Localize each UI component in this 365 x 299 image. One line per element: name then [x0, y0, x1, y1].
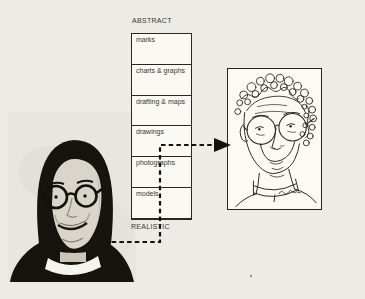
scale-level-label: photographs [132, 157, 191, 167]
scale-level-label: charts & graphs [132, 65, 191, 75]
scale-top-label: ABSTRACT [132, 17, 172, 24]
scale-level-charts-graphs: charts & graphs [132, 65, 191, 96]
scale-bottom-label: REALISTIC [131, 223, 170, 230]
scale-level-photographs: photographs [132, 157, 191, 188]
scale-level-models: models [132, 188, 191, 218]
scale-level-marks: marks [132, 34, 191, 65]
abstraction-scale-column: marks charts & graphs drafting & maps dr… [131, 33, 192, 220]
scale-level-label: drawings [132, 126, 191, 136]
scale-level-label: models [132, 188, 191, 198]
scale-level-drafting-maps: drafting & maps [132, 96, 191, 127]
abstraction-scale-figure: ABSTRACT marks charts & graphs drafting … [0, 0, 365, 299]
scale-level-label: drafting & maps [132, 96, 191, 106]
line-drawing-portrait [228, 69, 321, 209]
scale-level-label: marks [132, 34, 191, 44]
realistic-photograph-portrait [8, 112, 136, 282]
scale-level-drawings: drawings [132, 126, 191, 157]
sketch-portrait-frame [227, 68, 322, 210]
